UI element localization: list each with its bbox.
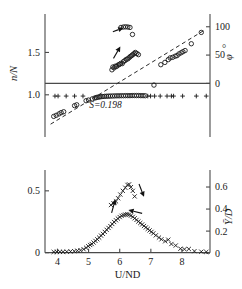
data-point bbox=[171, 94, 176, 99]
upper-panel-arrows bbox=[113, 27, 124, 58]
data-point bbox=[64, 94, 69, 99]
data-point bbox=[165, 94, 170, 99]
lower-right-axis-title: Ȳ/D bbox=[223, 208, 234, 225]
lower-panel-arrows bbox=[111, 184, 144, 214]
svg-text:Ȳ/D: Ȳ/D bbox=[223, 208, 234, 225]
data-point bbox=[189, 42, 193, 46]
data-point bbox=[72, 94, 77, 99]
x-tick-label: 4 bbox=[55, 256, 60, 267]
arrow-down-right-amplitude bbox=[139, 184, 145, 197]
data-point bbox=[148, 94, 153, 99]
x-tick-label: 5 bbox=[86, 256, 91, 267]
data-point bbox=[169, 242, 173, 246]
data-point bbox=[159, 237, 163, 241]
lower-panel: 00.500.20.40.645678Ȳ/D bbox=[28, 170, 235, 267]
data-point bbox=[194, 94, 199, 99]
upper-left-axis-title: n/N bbox=[8, 65, 19, 81]
data-point bbox=[78, 248, 82, 252]
strouhal-dashed-line bbox=[51, 30, 205, 124]
data-point bbox=[81, 94, 86, 99]
data-point bbox=[187, 247, 191, 251]
lower-panel-data-points bbox=[52, 182, 209, 254]
data-point bbox=[61, 250, 65, 254]
shared-axis-labels: U/ND bbox=[115, 269, 141, 280]
series-frequency-ratio-branch-upper bbox=[110, 50, 141, 72]
series-phase-angle-data bbox=[152, 30, 204, 87]
degree-symbol: ° bbox=[222, 43, 226, 54]
data-point bbox=[56, 94, 61, 99]
arrow-to-upper-branch bbox=[113, 47, 120, 59]
upper-right-tick-label: 0 bbox=[215, 78, 220, 89]
data-point bbox=[182, 247, 186, 251]
series-amplitude-response-lower bbox=[52, 212, 209, 254]
lower-left-tick-label: 0 bbox=[35, 247, 40, 258]
data-point bbox=[152, 94, 157, 99]
lower-right-tick-label: 0.2 bbox=[215, 226, 228, 237]
x-axis-title: U/ND bbox=[115, 269, 141, 280]
data-point bbox=[133, 194, 137, 198]
strouhal-annotation: S=0.198 bbox=[89, 100, 122, 110]
x-tick-label: 8 bbox=[179, 256, 184, 267]
x-tick-label: 6 bbox=[117, 256, 122, 267]
series-frequency-ratio-branch-top bbox=[119, 25, 135, 37]
upper-right-axis-title: φ bbox=[223, 54, 234, 60]
lower-right-tick-label: 0.6 bbox=[215, 181, 228, 192]
figure-container: 1.01.5050100S=0.198n/Nφ° 00.500.20.40.64… bbox=[0, 0, 242, 289]
upper-right-tick-label: 100 bbox=[215, 21, 230, 32]
data-point bbox=[118, 192, 122, 196]
data-point bbox=[130, 32, 134, 36]
upper-panel-axes bbox=[45, 14, 210, 137]
lower-left-tick-label: 0.5 bbox=[28, 185, 41, 196]
data-point bbox=[180, 94, 185, 99]
upper-left-tick-label: 1.0 bbox=[28, 89, 41, 100]
upper-left-tick-label: 1.5 bbox=[28, 47, 41, 58]
scatter-chart: 1.01.5050100S=0.198n/Nφ° 00.500.20.40.64… bbox=[0, 0, 242, 289]
data-point bbox=[158, 94, 163, 99]
x-tick-label: 7 bbox=[148, 256, 153, 267]
data-point bbox=[204, 94, 209, 99]
upper-panel-data-points bbox=[52, 25, 209, 119]
lower-right-tick-label: 0 bbox=[215, 248, 220, 259]
upper-panel: 1.01.5050100S=0.198n/Nφ° bbox=[8, 14, 234, 137]
strouhal-fit-line bbox=[51, 30, 205, 124]
data-point bbox=[174, 243, 178, 247]
